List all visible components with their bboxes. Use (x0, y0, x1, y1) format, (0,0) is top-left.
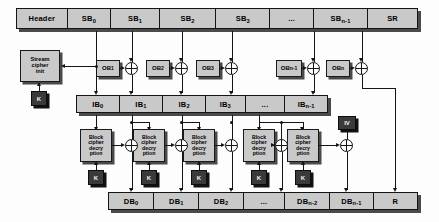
cell-label: IB (298, 100, 306, 109)
wire-sr-route-to-r (395, 88, 396, 190)
junction-ib1 (130, 121, 133, 124)
cell-label: SB (236, 14, 247, 23)
cell-label: IB (92, 100, 100, 109)
arrow-bcn-to-xor (336, 143, 340, 147)
xor-gate-obn (355, 62, 368, 75)
key-label: K (94, 175, 98, 181)
ob-label: OB (152, 65, 161, 71)
bar-cell-sb3[interactable]: SB3 (216, 9, 270, 28)
wire-xor-dbn1-down (347, 152, 348, 190)
arrow-sb0-to-stream-cipher (61, 64, 65, 68)
xor-gate-db1 (175, 139, 188, 152)
block-cipher-key-n[interactable]: K (295, 170, 311, 185)
block-cipher-key-n-minus-1[interactable]: K (251, 170, 267, 185)
cell-sub: 2 (191, 18, 194, 24)
cell-sub: 0 (93, 18, 96, 24)
cell-sub: n-1 (306, 103, 315, 109)
cell-label: DB (297, 197, 308, 206)
bar-cell-db0[interactable]: DB0 (109, 193, 154, 209)
bar-cell-sb2[interactable]: SB2 (160, 9, 216, 28)
ciphertext-packet-bar: Header SB0 SB1 SB2 SB3 ... SBn-1 SR (16, 8, 418, 29)
block-cipher-key-2[interactable]: K (191, 170, 207, 185)
bar-cell-ibn1[interactable]: IBn-1 (285, 96, 327, 112)
cell-sub: 1 (139, 18, 142, 24)
arrow-key2-to-bc2 (197, 161, 201, 165)
bar-cell-dbn2[interactable]: DBn-2 (285, 193, 330, 209)
bar-cell-ellipsis: ... (244, 193, 285, 209)
output-block-3[interactable]: OB3 (196, 60, 220, 77)
bar-cell-ib3[interactable]: IB3 (206, 96, 246, 112)
ob-sub: n (341, 66, 344, 71)
bc-label-line4: ption (253, 151, 266, 156)
bar-cell-sb1[interactable]: SB1 (111, 9, 160, 28)
arrow-sb2-to-xor (179, 58, 183, 62)
iv-label: IV (344, 120, 350, 126)
block-cipher-decryption-n[interactable]: Block cipher decry ption (287, 129, 319, 162)
arrow-bc1-to-xor (171, 143, 175, 147)
bar-cell-sb0[interactable]: SB0 (68, 9, 111, 28)
wire-sb0-down (96, 31, 97, 93)
wire-sb0-to-stream-cipher (65, 66, 96, 67)
bar-cell-db1[interactable]: DB1 (154, 193, 199, 209)
wire-xor-db1-down (182, 152, 183, 190)
cell-sub: n-2 (308, 200, 317, 206)
cell-sub: 3 (247, 18, 250, 24)
output-block-2[interactable]: OB2 (146, 60, 170, 77)
arrow-bcn1-to-xor (271, 143, 275, 147)
arrow-ob3-to-xor (221, 66, 225, 70)
cell-sub: 2 (186, 103, 189, 109)
arrow-key-to-stream-cipher (37, 82, 41, 86)
arrow-sbn1-to-xor (311, 58, 315, 62)
bar-cell-ellipsis: ... (246, 96, 286, 112)
xor-gate-dbn1 (340, 139, 353, 152)
wire-xor-db2-down (232, 152, 233, 190)
arrow-sb3-to-xor (229, 58, 233, 62)
bar-cell-sbn1[interactable]: SBn-1 (314, 9, 368, 28)
bar-cell-ib1[interactable]: IB1 (120, 96, 164, 112)
ob-sub: 3 (211, 66, 214, 71)
cell-label: DB (169, 197, 180, 206)
xor-gate-ob1 (125, 62, 138, 75)
ob-label: OB (281, 65, 290, 71)
stream-cipher-key-block[interactable]: K (31, 91, 47, 106)
input-block-bar: IB0 IB1 IB2 IB3 ... IBn-1 (76, 95, 328, 113)
output-block-1[interactable]: OB1 (96, 60, 120, 77)
cell-label: SB (180, 14, 191, 23)
cell-label: IB (135, 100, 143, 109)
cell-label: SB (128, 14, 139, 23)
bar-cell-db2[interactable]: DB2 (199, 193, 243, 209)
bc-label-line4: ption (297, 151, 310, 156)
xor-gate-db2 (225, 139, 238, 152)
block-cipher-key-1[interactable]: K (141, 170, 157, 185)
cell-label: ... (288, 14, 295, 23)
bar-cell-ib2[interactable]: IB2 (163, 96, 206, 112)
bar-cell-r[interactable]: R (374, 193, 417, 209)
cell-sub: 1 (180, 200, 183, 206)
junction-sb0-stream (95, 65, 98, 68)
output-block-n[interactable]: OBn (326, 60, 350, 77)
stream-cipher-init-block[interactable]: Stream cipher init (20, 50, 60, 82)
arrow-obn1-to-xor (303, 66, 307, 70)
output-block-n-minus-1[interactable]: OBn-1 (276, 60, 302, 77)
xor-gate-db0 (125, 139, 138, 152)
bar-cell-sr[interactable]: SR (368, 9, 417, 28)
xor-gate-dbn2 (275, 139, 288, 152)
initialization-vector-block[interactable]: IV (338, 116, 356, 130)
bar-cell-ib0[interactable]: IB0 (77, 96, 120, 112)
wire-ib2-branch (182, 122, 200, 123)
cell-label: DB (214, 197, 225, 206)
bar-cell-header[interactable]: Header (17, 9, 68, 28)
bar-cell-dbn1[interactable]: DBn-1 (330, 193, 373, 209)
block-cipher-key-0[interactable]: K (88, 170, 104, 185)
cell-label: DB (341, 197, 352, 206)
cell-label: ... (262, 100, 269, 109)
key-label: K (301, 175, 305, 181)
block-cipher-decryption-0[interactable]: Block cipher decry ption (80, 129, 112, 162)
key-label: K (147, 175, 151, 181)
bc-label-line4: ption (193, 151, 206, 156)
arrow-key1-to-bc1 (147, 161, 151, 165)
cell-label: SB (331, 14, 342, 23)
cell-sub: 2 (225, 200, 228, 206)
ob-label: OB (332, 65, 341, 71)
cell-label: SB (82, 14, 93, 23)
